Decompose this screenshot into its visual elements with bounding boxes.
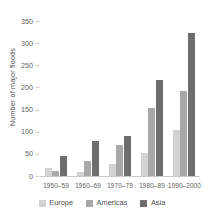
bar [60,156,67,176]
y-tick-mark [36,43,39,44]
bar [77,172,84,176]
y-tick-label: 150 [0,106,33,113]
legend-label: Europe [49,199,73,207]
y-tick-label: 100 [0,128,33,135]
legend-swatch-icon [86,200,93,207]
bar [92,141,99,176]
y-tick-mark [36,87,39,88]
y-tick-mark [36,21,39,22]
bar-group [141,21,163,176]
legend-label: Americas [97,199,128,207]
bar-group [45,21,67,176]
legend-item-europe[interactable]: Europe [39,199,73,207]
bar [188,33,195,176]
bar [109,164,116,176]
y-tick-label: 200 [0,84,33,91]
legend-label: Asia [151,199,165,207]
bar [173,130,180,177]
x-tick-label: 1990–2000 [168,182,200,189]
y-tick-label: 350 [0,18,33,25]
y-tick-mark [36,65,39,66]
x-tick-label: 1980–89 [136,182,168,189]
bar-group [109,21,131,176]
bar [148,108,155,176]
x-axis-line [40,176,200,177]
plot-area [40,21,200,177]
chart-legend: EuropeAmericasAsia [0,199,204,207]
y-tick-mark [36,110,39,111]
y-tick-mark [36,176,39,177]
bar [180,91,187,176]
y-tick-mark [36,154,39,155]
bar-chart-figure: Number of major floods 05010015020025030… [0,0,204,222]
y-tick-label: 0 [0,173,33,180]
y-tick-label: 50 [0,150,33,157]
legend-swatch-icon [39,200,46,207]
legend-item-asia[interactable]: Asia [140,199,165,207]
bar [156,80,163,176]
y-tick-label: 300 [0,40,33,47]
y-tick-mark [36,132,39,133]
bar-group [77,21,99,176]
x-tick-label: 1950–59 [40,182,72,189]
bar [141,153,148,176]
bar [124,136,131,176]
legend-item-americas[interactable]: Americas [86,199,127,207]
x-tick-label: 1970–79 [104,182,136,189]
bar [52,171,59,176]
y-tick-label: 250 [0,62,33,69]
x-tick-label: 1960–69 [72,182,104,189]
bar [116,145,123,176]
bar [45,168,52,176]
bar-group [173,21,195,176]
legend-swatch-icon [140,200,147,207]
bar [84,161,91,176]
